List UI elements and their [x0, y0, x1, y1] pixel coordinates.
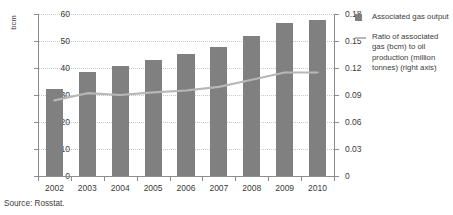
chart-figure: bcm 00100.03200.06300.09400.12500.15600.… — [0, 0, 453, 215]
y-axis-right-tick-label: 0.03 — [345, 145, 362, 153]
x-tick-mark — [301, 177, 302, 181]
tick-mark-right — [335, 176, 339, 177]
x-axis-tick-label: 2004 — [104, 183, 137, 193]
x-axis-tick-label: 2006 — [170, 183, 203, 193]
source-note: Source: Rosstat. — [4, 199, 65, 208]
x-axis-line — [38, 176, 335, 177]
legend-item-associated-gas-output: Associated gas output — [355, 12, 453, 23]
x-tick-mark — [137, 177, 138, 181]
legend-label-ratio: Ratio of associated gas (bcm) to oil pro… — [372, 32, 453, 74]
tick-mark-right — [335, 149, 339, 150]
legend-square-swatch-icon — [355, 14, 362, 21]
tick-mark-right — [335, 14, 339, 15]
x-tick-mark — [202, 177, 203, 181]
x-axis-tick-label: 2008 — [235, 183, 268, 193]
x-axis-tick-label: 2010 — [301, 183, 334, 193]
x-tick-mark — [71, 177, 72, 181]
left-axis-title: bcm — [9, 6, 18, 40]
x-axis-tick-label: 2007 — [202, 183, 235, 193]
x-axis-tick-label: 2003 — [71, 183, 104, 193]
y-axis-right-tick-label: 0.06 — [345, 118, 362, 126]
legend-label-associated-gas-output: Associated gas output — [372, 12, 453, 23]
x-tick-mark — [104, 177, 105, 181]
legend: Associated gas output Ratio of associate… — [355, 12, 453, 83]
tick-mark-right — [335, 41, 339, 42]
tick-mark-right — [335, 122, 339, 123]
y-axis-right-tick-label: 0.09 — [345, 91, 362, 99]
tick-mark-right — [335, 95, 339, 96]
x-tick-mark — [38, 177, 39, 181]
legend-item-ratio: Ratio of associated gas (bcm) to oil pro… — [355, 32, 453, 74]
y-axis-right-line — [334, 14, 335, 177]
ratio-line-series — [38, 14, 334, 176]
legend-line-swatch-icon — [355, 37, 366, 39]
x-tick-mark — [235, 177, 236, 181]
x-axis-tick-label: 2005 — [137, 183, 170, 193]
x-axis-tick-label: 2002 — [38, 183, 71, 193]
ratio-line-path — [54, 73, 317, 101]
x-tick-mark — [334, 177, 335, 181]
x-axis-tick-label: 2009 — [268, 183, 301, 193]
x-tick-mark — [268, 177, 269, 181]
tick-mark-right — [335, 68, 339, 69]
x-tick-mark — [170, 177, 171, 181]
y-axis-right-tick-label: 0 — [345, 172, 350, 180]
